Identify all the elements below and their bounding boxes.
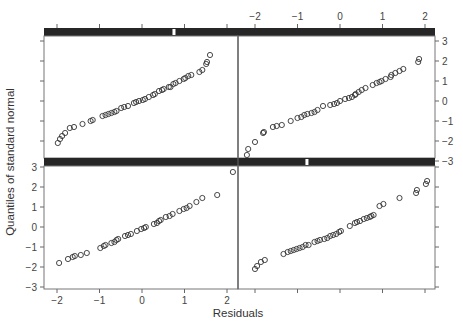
right-y-tick-label: 2 bbox=[442, 56, 448, 67]
bottom-x-tick-label: 2 bbox=[224, 295, 230, 306]
data-point bbox=[109, 110, 114, 115]
panel-bottom-right bbox=[238, 158, 435, 289]
right-y-tick-label: 3 bbox=[442, 36, 448, 47]
panel-frame bbox=[238, 36, 435, 158]
data-point bbox=[244, 152, 249, 157]
data-point bbox=[347, 223, 352, 228]
y-axis-title: Quantiles of standard normal bbox=[4, 88, 16, 236]
data-point bbox=[151, 221, 156, 226]
data-point bbox=[252, 139, 257, 144]
top-x-tick-label: −2 bbox=[249, 11, 261, 22]
panel-frame bbox=[44, 36, 238, 158]
strip-bottom-right bbox=[238, 158, 435, 166]
data-point bbox=[312, 239, 317, 244]
panel-top-right bbox=[238, 28, 435, 158]
right-y-tick-label: −1 bbox=[442, 116, 454, 127]
left-y-tick-label: 1 bbox=[31, 202, 37, 213]
left-y-tick-label: 0 bbox=[31, 222, 37, 233]
data-point bbox=[63, 130, 68, 135]
data-point bbox=[207, 52, 212, 57]
data-point bbox=[297, 245, 302, 250]
strip-level-marker bbox=[172, 29, 175, 35]
data-point bbox=[116, 236, 121, 241]
strip-bottom-left bbox=[44, 158, 238, 166]
data-point bbox=[143, 224, 148, 229]
data-point bbox=[285, 249, 290, 254]
x-axis-title: Residuals bbox=[213, 307, 264, 319]
strip-level-marker bbox=[305, 159, 308, 165]
bottom-x-tick-label: −1 bbox=[94, 295, 106, 306]
top-x-tick-label: 2 bbox=[422, 11, 428, 22]
left-y-tick-label: −2 bbox=[26, 262, 38, 273]
panel-bottom-left bbox=[44, 158, 238, 289]
data-point bbox=[84, 250, 89, 255]
data-point bbox=[417, 56, 422, 61]
data-point bbox=[230, 169, 235, 174]
data-point bbox=[57, 260, 62, 265]
data-point bbox=[194, 199, 199, 204]
data-point bbox=[288, 118, 293, 123]
data-point bbox=[200, 195, 205, 200]
data-point bbox=[100, 113, 105, 118]
left-y-tick-label: −3 bbox=[26, 282, 38, 293]
left-y-tick-label: 3 bbox=[31, 162, 37, 173]
right-y-tick-label: 0 bbox=[442, 96, 448, 107]
strip-top-right bbox=[238, 28, 435, 36]
panels-layer bbox=[44, 28, 435, 289]
data-point bbox=[425, 178, 430, 183]
data-point bbox=[109, 240, 114, 245]
data-point bbox=[78, 252, 83, 257]
right-y-tick-label: −2 bbox=[442, 136, 454, 147]
panel-top-left bbox=[44, 28, 238, 158]
data-point bbox=[215, 192, 220, 197]
panel-frame bbox=[44, 166, 238, 289]
bottom-x-tick-label: 0 bbox=[139, 295, 145, 306]
left-y-tick-label: −1 bbox=[26, 242, 38, 253]
data-point bbox=[331, 232, 336, 237]
bottom-x-tick-label: −2 bbox=[51, 295, 63, 306]
left-y-tick-label: 2 bbox=[31, 182, 37, 193]
strip-top-left bbox=[44, 28, 238, 36]
data-point bbox=[103, 242, 108, 247]
panel-frame bbox=[238, 166, 435, 289]
right-y-tick-label: 1 bbox=[442, 76, 448, 87]
right-y-tick-label: −3 bbox=[442, 156, 454, 167]
data-point bbox=[80, 121, 85, 126]
data-point bbox=[423, 181, 428, 186]
top-x-tick-label: −1 bbox=[292, 11, 304, 22]
data-point bbox=[158, 217, 163, 222]
data-point bbox=[414, 187, 419, 192]
top-x-tick-label: 1 bbox=[380, 11, 386, 22]
data-point bbox=[119, 105, 124, 110]
data-point bbox=[288, 248, 293, 253]
data-point bbox=[122, 233, 127, 238]
data-point bbox=[161, 86, 166, 91]
data-point bbox=[246, 146, 251, 151]
data-point bbox=[397, 195, 402, 200]
data-point bbox=[320, 103, 325, 108]
data-point bbox=[338, 228, 343, 233]
bottom-x-tick-label: 1 bbox=[182, 295, 188, 306]
data-point bbox=[279, 122, 284, 127]
data-point bbox=[189, 72, 194, 77]
top-x-tick-label: 0 bbox=[337, 11, 343, 22]
qq-trellis-chart: −2−1012−2−10123210−1−2−33210−1−2−3 Resid… bbox=[0, 0, 463, 330]
